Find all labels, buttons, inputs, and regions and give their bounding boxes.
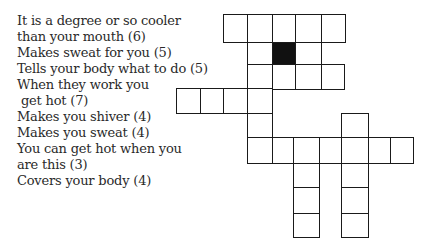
crossword-cell[interactable] xyxy=(200,88,224,114)
crossword-cell[interactable] xyxy=(293,137,320,164)
crossword-cell[interactable] xyxy=(341,113,369,138)
crossword-cell[interactable] xyxy=(295,14,322,43)
crossword-cell[interactable] xyxy=(321,14,346,43)
crossword-cell[interactable] xyxy=(247,64,273,90)
crossword-cell[interactable] xyxy=(272,64,296,90)
crossword-cell[interactable] xyxy=(272,14,296,43)
crossword-cell[interactable] xyxy=(293,213,320,238)
clue-1-line-2: than your mouth (6) xyxy=(17,29,208,45)
clue-1-line-1: It is a degree or so cooler xyxy=(17,13,208,29)
crossword-cell[interactable] xyxy=(247,113,273,138)
clue-7-line-1: You can get hot when you xyxy=(17,141,208,157)
crossword-cell[interactable] xyxy=(341,137,369,164)
crossword-cell[interactable] xyxy=(368,137,391,164)
crossword-cell[interactable] xyxy=(247,137,273,164)
crossword-cell[interactable] xyxy=(293,163,320,188)
crossword-black-cell xyxy=(272,42,296,65)
crossword-cell[interactable] xyxy=(295,42,322,65)
crossword-cell[interactable] xyxy=(319,137,342,164)
crossword-cell[interactable] xyxy=(247,88,273,114)
crossword-cell[interactable] xyxy=(341,187,369,214)
crossword-cell[interactable] xyxy=(293,187,320,214)
clue-2: Makes sweat for you (5) xyxy=(17,45,208,61)
crossword-cell[interactable] xyxy=(176,88,201,114)
crossword-cell[interactable] xyxy=(295,64,322,90)
crossword-cell[interactable] xyxy=(223,88,248,114)
clue-7-line-2: are this (3) xyxy=(17,157,208,173)
crossword-cell[interactable] xyxy=(341,213,369,238)
crossword-cell[interactable] xyxy=(321,64,345,90)
clue-8: Covers your body (4) xyxy=(17,173,208,189)
crossword-cell[interactable] xyxy=(390,137,414,164)
clue-6: Makes you sweat (4) xyxy=(17,125,208,141)
crossword-cell[interactable] xyxy=(247,14,273,43)
clue-3: Tells your body what to do (5) xyxy=(17,61,208,77)
crossword-cell[interactable] xyxy=(247,42,273,65)
crossword-cell[interactable] xyxy=(223,14,248,43)
crossword-cell[interactable] xyxy=(341,163,369,188)
crossword-cell[interactable] xyxy=(272,137,294,164)
